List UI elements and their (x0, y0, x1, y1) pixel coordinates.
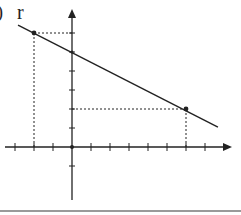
dashed-guides (34, 33, 186, 147)
lower-point (184, 107, 189, 112)
x-axis-arrow-icon (223, 143, 232, 151)
line-r (18, 25, 218, 127)
coordinate-diagram (0, 0, 241, 215)
bottom-divider (0, 210, 241, 212)
axes (5, 9, 232, 200)
upper-point (32, 31, 37, 36)
y-axis-arrow-icon (68, 9, 76, 18)
line-r-segment (18, 25, 218, 127)
origin-dot (70, 145, 74, 149)
line-label-r: r (17, 1, 24, 24)
partial-paren-label: ) (0, 2, 3, 23)
y-intercept-dot (70, 50, 73, 53)
